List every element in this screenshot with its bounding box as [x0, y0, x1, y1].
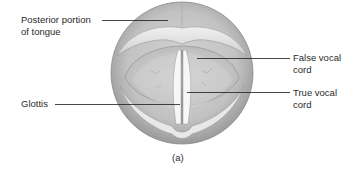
label-posterior-tongue: Posterior portion of tongue [21, 14, 91, 38]
larynx-circle [111, 2, 253, 144]
label-glottis: Glottis [21, 98, 48, 110]
figure-caption: (a) [172, 152, 184, 163]
label-false-vocal-cord: False vocal cord [293, 52, 341, 76]
label-true-vocal-cord: True vocal cord [293, 87, 337, 111]
